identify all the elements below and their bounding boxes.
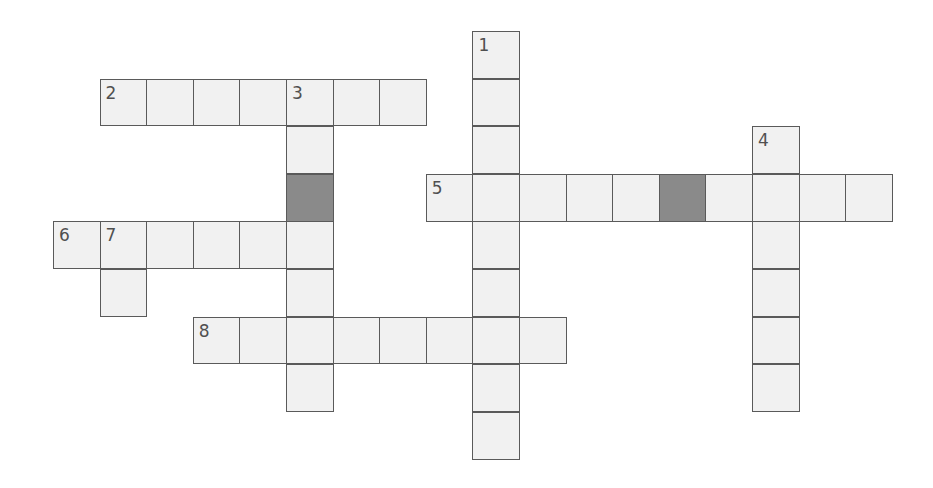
- crossword-cell[interactable]: [193, 221, 241, 269]
- crossword-cell[interactable]: [845, 174, 893, 222]
- clue-number: 4: [758, 132, 769, 149]
- crossword-cell[interactable]: [472, 126, 520, 174]
- crossword-cell[interactable]: [379, 317, 427, 365]
- clue-number: 1: [478, 37, 489, 54]
- blocked-cell: [286, 174, 334, 222]
- crossword-cell[interactable]: [146, 221, 194, 269]
- crossword-cell[interactable]: [519, 174, 567, 222]
- crossword-cell[interactable]: 8: [193, 317, 241, 365]
- crossword-cell[interactable]: [472, 364, 520, 412]
- crossword-cell[interactable]: [705, 174, 753, 222]
- crossword-cell[interactable]: [239, 317, 287, 365]
- crossword-cell[interactable]: [379, 79, 427, 127]
- crossword-cell[interactable]: [752, 221, 800, 269]
- crossword-cell[interactable]: [239, 221, 287, 269]
- crossword-cell[interactable]: [239, 79, 287, 127]
- crossword-cell[interactable]: [752, 317, 800, 365]
- crossword-cell[interactable]: [100, 269, 148, 317]
- crossword-cell[interactable]: 3: [286, 79, 334, 127]
- crossword-cell[interactable]: [286, 364, 334, 412]
- blocked-cell: [659, 174, 707, 222]
- crossword-cell[interactable]: [146, 79, 194, 127]
- crossword-cell[interactable]: [472, 317, 520, 365]
- crossword-cell[interactable]: 1: [472, 31, 520, 79]
- crossword-cell[interactable]: 2: [100, 79, 148, 127]
- crossword-cell[interactable]: [472, 412, 520, 460]
- crossword-cell[interactable]: [333, 79, 381, 127]
- crossword-cell[interactable]: [752, 269, 800, 317]
- crossword-cell[interactable]: [286, 317, 334, 365]
- crossword-cell[interactable]: [472, 269, 520, 317]
- crossword-cell[interactable]: [799, 174, 847, 222]
- crossword-cell[interactable]: [472, 79, 520, 127]
- crossword-cell[interactable]: 5: [426, 174, 474, 222]
- crossword-cell[interactable]: [752, 174, 800, 222]
- clue-number: 2: [106, 85, 117, 102]
- crossword-cell[interactable]: [286, 221, 334, 269]
- clue-number: 3: [292, 85, 303, 102]
- clue-number: 7: [106, 227, 117, 244]
- crossword-cell[interactable]: [426, 317, 474, 365]
- crossword-grid: 12345678: [0, 0, 933, 488]
- crossword-cell[interactable]: [286, 126, 334, 174]
- crossword-cell[interactable]: 6: [53, 221, 101, 269]
- clue-number: 6: [59, 227, 70, 244]
- crossword-cell[interactable]: [193, 79, 241, 127]
- clue-number: 5: [432, 180, 443, 197]
- crossword-cell[interactable]: [286, 269, 334, 317]
- crossword-cell[interactable]: [752, 364, 800, 412]
- crossword-cell[interactable]: [519, 317, 567, 365]
- crossword-cell[interactable]: [472, 174, 520, 222]
- crossword-cell[interactable]: [612, 174, 660, 222]
- crossword-cell[interactable]: 7: [100, 221, 148, 269]
- clue-number: 8: [199, 323, 210, 340]
- crossword-cell[interactable]: [566, 174, 614, 222]
- crossword-cell[interactable]: [333, 317, 381, 365]
- crossword-cell[interactable]: [472, 221, 520, 269]
- crossword-cell[interactable]: 4: [752, 126, 800, 174]
